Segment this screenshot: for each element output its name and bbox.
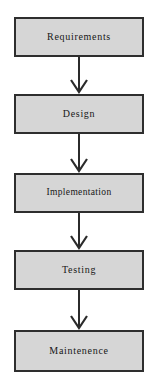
stage-box-requirements[interactable]: Requirements	[14, 17, 144, 57]
stage-box-implementation[interactable]: Implementation	[14, 173, 144, 213]
stage-label-maintenence: Maintenence	[49, 346, 108, 356]
down-arrow-icon	[0, 290, 158, 330]
stage-box-maintenence[interactable]: Maintenence	[14, 330, 144, 372]
stage-label-design: Design	[63, 109, 96, 119]
down-arrow-icon	[0, 213, 158, 250]
stage-box-testing[interactable]: Testing	[14, 250, 144, 290]
stage-label-implementation: Implementation	[46, 188, 111, 198]
arrow-design-to-implementation	[0, 134, 158, 173]
arrow-testing-to-maintenence	[0, 290, 158, 330]
waterfall-model-diagram: Requirements Design Implementation Testi…	[0, 0, 158, 390]
down-arrow-icon	[0, 57, 158, 94]
stage-label-requirements: Requirements	[47, 32, 111, 42]
arrow-requirements-to-design	[0, 57, 158, 94]
arrow-implementation-to-testing	[0, 213, 158, 250]
stage-label-testing: Testing	[62, 265, 96, 275]
down-arrow-icon	[0, 134, 158, 173]
stage-box-design[interactable]: Design	[14, 94, 144, 134]
